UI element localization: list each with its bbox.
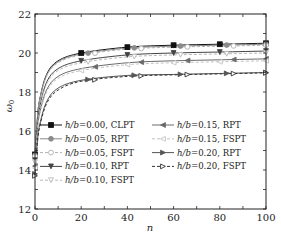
x-tick-label: 100 — [256, 212, 275, 223]
circle-marker — [224, 43, 229, 48]
triangle-right-marker — [224, 71, 229, 76]
legend-item: h/b=0.20, FSPT — [152, 161, 246, 171]
series-line — [35, 51, 266, 160]
legend: h/b=0.00, CLPTh/b=0.05, RPTh/b=0.05, FSP… — [40, 120, 246, 185]
x-axis-label: n — [147, 222, 153, 233]
triangle-down-marker — [224, 51, 229, 56]
y-axis-label-subscript: 0 — [8, 100, 16, 104]
legend-label: h/b=0.15, FSPT — [177, 134, 246, 144]
y-tick-label: 20 — [18, 48, 31, 59]
legend-label: h/b=0.05, FSPT — [65, 148, 134, 158]
circle-marker — [231, 43, 236, 48]
triangle-right-marker — [178, 72, 183, 77]
circle-marker — [139, 46, 144, 51]
legend-label: h/b=0.10, RPT — [65, 161, 129, 171]
y-axis-label-text: ω0 — [3, 100, 16, 113]
circle-marker — [49, 150, 54, 155]
square-marker — [171, 43, 176, 48]
y-axis-ticks: 121416182022 — [18, 9, 266, 215]
y-tick-label: 14 — [18, 165, 31, 176]
x-tick-label: 80 — [213, 212, 226, 223]
legend-label: h/b=0.15, RPT — [177, 120, 241, 130]
triangle-left-marker — [185, 58, 190, 63]
circle-marker — [93, 51, 98, 56]
triangle-down-marker — [178, 52, 183, 57]
y-tick-label: 18 — [18, 87, 31, 98]
x-tick-label: 0 — [32, 212, 38, 223]
circle-marker — [132, 45, 137, 50]
legend-label: h/b=0.20, RPT — [177, 148, 241, 158]
y-tick-label: 16 — [18, 126, 31, 137]
legend-item: h/b=0.20, RPT — [152, 148, 241, 158]
legend-item: h/b=0.10, FSPT — [40, 175, 134, 185]
series-line — [35, 53, 266, 162]
triangle-right-marker — [132, 73, 137, 78]
legend-item: h/b=0.15, RPT — [152, 120, 241, 130]
x-tick-label: 40 — [121, 212, 134, 223]
circle-marker — [185, 44, 190, 49]
square-marker — [125, 45, 130, 50]
legend-item: h/b=0.15, FSPT — [152, 134, 246, 144]
y-tick-label: 12 — [18, 204, 31, 215]
legend-label: h/b=0.05, RPT — [65, 134, 129, 144]
circle-marker — [178, 44, 183, 49]
x-tick-label: 20 — [75, 212, 88, 223]
triangle-left-marker — [139, 60, 144, 65]
y-tick-label: 22 — [18, 9, 31, 20]
triangle-down-marker — [86, 59, 91, 64]
square-marker — [49, 123, 54, 128]
line-chart: 020406080100 121416182022 n ω0 h/b=0.00,… — [0, 0, 281, 237]
legend-label: h/b=0.00, CLPT — [65, 120, 135, 130]
triangle-down-marker — [132, 54, 137, 59]
x-tick-label: 60 — [167, 212, 180, 223]
y-axis-label: ω0 — [3, 100, 16, 113]
circle-marker — [86, 51, 91, 56]
legend-label: h/b=0.10, FSPT — [65, 175, 134, 185]
triangle-right-marker — [86, 77, 91, 82]
legend-item: h/b=0.05, FSPT — [40, 148, 134, 158]
triangle-down-marker — [49, 178, 54, 183]
legend-item: h/b=0.00, CLPT — [40, 120, 135, 130]
square-marker — [217, 42, 222, 47]
triangle-right-marker — [161, 150, 166, 155]
circle-marker — [49, 136, 54, 141]
triangle-right-marker — [161, 164, 166, 169]
triangle-right-marker — [185, 72, 190, 77]
triangle-down-marker — [79, 58, 84, 63]
square-marker — [79, 51, 84, 56]
legend-item: h/b=0.10, RPT — [40, 161, 129, 171]
legend-label: h/b=0.20, FSPT — [177, 161, 246, 171]
triangle-left-marker — [161, 136, 166, 141]
triangle-right-marker — [231, 71, 236, 76]
legend-item: h/b=0.05, RPT — [40, 134, 129, 144]
triangle-right-marker — [139, 74, 144, 79]
triangle-down-marker — [49, 164, 54, 169]
triangle-left-marker — [161, 123, 166, 128]
